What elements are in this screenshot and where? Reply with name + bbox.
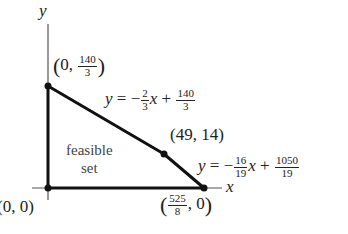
minus: − xyxy=(131,89,141,108)
denominator: 19 xyxy=(280,168,293,180)
y-axis-label: y xyxy=(39,2,47,19)
intercept-fraction: 105019 xyxy=(275,155,299,179)
variable-x: x xyxy=(248,156,256,175)
numerator: 2 xyxy=(141,88,149,101)
numerator: 1050 xyxy=(275,155,299,168)
numerator: 16 xyxy=(234,155,247,168)
equals: = xyxy=(117,89,127,108)
minus: − xyxy=(224,156,234,175)
coord-x: 0 xyxy=(3,197,12,216)
coord-x: 0 xyxy=(60,55,69,74)
variable-x: x xyxy=(150,89,158,108)
plus: + xyxy=(162,89,172,108)
label-corner: (49, 14) xyxy=(170,126,224,143)
vertex-corner xyxy=(161,151,168,158)
vertex-y-intercept xyxy=(45,83,52,90)
paren-close: ) xyxy=(98,53,105,78)
equals: = xyxy=(210,156,220,175)
slope-fraction: 23 xyxy=(141,88,149,112)
paren-open: ( xyxy=(160,192,167,217)
vertex-origin xyxy=(45,185,52,192)
numerator: 140 xyxy=(78,54,97,67)
x-axis-label: x xyxy=(226,178,234,195)
lhs: y xyxy=(105,89,113,108)
denominator: 8 xyxy=(174,206,182,218)
comma: , xyxy=(11,197,15,216)
lhs: y xyxy=(198,156,206,175)
numerator: 140 xyxy=(176,88,195,101)
paren-close: ) xyxy=(205,192,212,217)
comma: , xyxy=(69,55,73,74)
fraction-140-3: 1403 xyxy=(78,54,97,78)
slope-fraction: 1619 xyxy=(234,155,247,179)
label-y-intercept: (0, 1403) xyxy=(53,54,105,78)
constraint-equation-2: y = −1619x + 105019 xyxy=(198,155,300,179)
denominator: 3 xyxy=(84,67,92,79)
fraction-525-8: 5258 xyxy=(168,193,187,217)
feasible-set-label: feasible set xyxy=(66,141,113,177)
intercept-fraction: 1403 xyxy=(176,88,195,112)
coord-y: 0 xyxy=(196,194,205,213)
vertex-x-intercept xyxy=(201,185,208,192)
coord-y: 0 xyxy=(20,197,29,216)
label-x-intercept: (5258, 0) xyxy=(160,193,212,217)
label-origin: (0, 0) xyxy=(0,198,34,215)
feasible-word: feasible xyxy=(66,141,113,159)
denominator: 3 xyxy=(141,101,149,113)
feasible-region-diagram: y x (0, 1403) y = −23x + 1403 (49, 14) y… xyxy=(0,0,348,234)
comma: , xyxy=(188,194,192,213)
denominator: 19 xyxy=(234,168,247,180)
set-word: set xyxy=(66,159,113,177)
plus: + xyxy=(260,156,270,175)
constraint-equation-1: y = −23x + 1403 xyxy=(105,88,196,112)
numerator: 525 xyxy=(168,193,187,206)
denominator: 3 xyxy=(182,101,190,113)
